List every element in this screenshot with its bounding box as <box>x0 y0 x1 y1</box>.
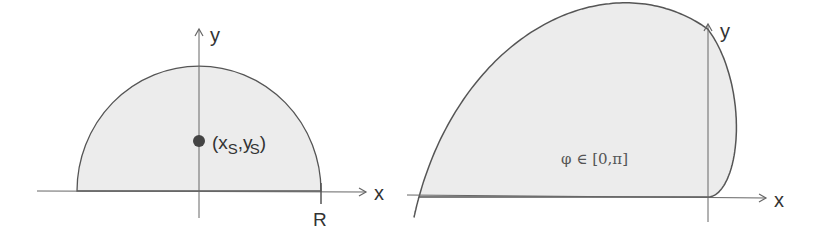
x-axis-label-right: x <box>774 189 784 211</box>
semicircle-figure: y x R (xS,yS) <box>37 24 384 230</box>
x-axis-label-left: x <box>374 182 384 204</box>
centroid-point <box>193 135 205 147</box>
spiral-figure: y x φ ∈ [0,π] <box>407 3 784 222</box>
y-axis-label-left: y <box>210 24 220 46</box>
diagram-canvas: y x R (xS,yS) y x φ ∈ [0,π] <box>0 0 823 238</box>
spiral-tail <box>414 197 419 218</box>
radius-label: R <box>313 209 327 230</box>
y-axis-label-right: y <box>720 20 730 42</box>
phi-range-label: φ ∈ [0,π] <box>561 150 628 168</box>
